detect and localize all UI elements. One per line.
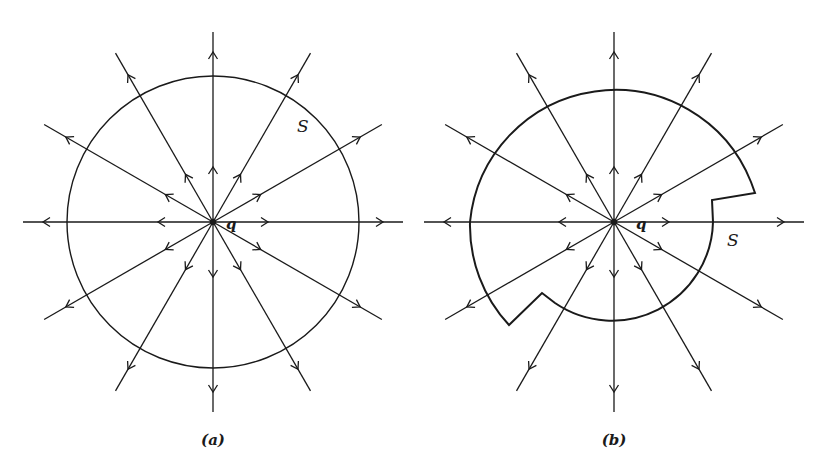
surface-label: S [297,116,309,136]
field-line [44,125,213,223]
field-line [614,222,783,320]
panel-caption: (b) [602,431,627,449]
panel-a: q S (a) [23,32,403,449]
field-line [213,222,382,320]
field-line [517,53,615,222]
field-line [614,53,712,222]
charge-label: q [226,215,237,233]
field-line [614,222,712,391]
field-line [614,125,783,223]
point-charge [611,219,617,225]
field-line [517,222,615,391]
field-line [44,222,213,320]
surface-label: S [727,230,739,250]
point-charge [210,219,216,225]
field-line [213,222,311,391]
gauss-law-figure: q S (a) q S (b) [0,0,823,476]
gaussian-surface-irregular [470,90,755,325]
field-line [445,125,614,223]
field-line [116,222,214,391]
panel-caption: (a) [201,431,225,449]
field-line [213,125,382,223]
field-line [213,53,311,222]
field-line [116,53,214,222]
panel-b: q S (b) [424,32,804,449]
charge-label: q [636,215,647,233]
